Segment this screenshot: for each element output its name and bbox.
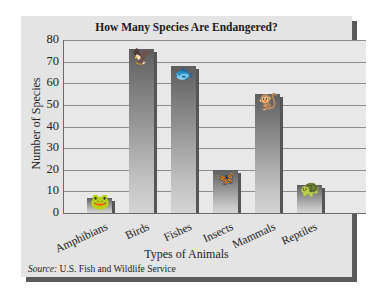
gridline: [64, 105, 366, 106]
bird-icon: 🦅: [132, 49, 152, 65]
gridline: [64, 83, 366, 84]
gridline: [64, 40, 366, 41]
bar-mammals: 🐒: [255, 94, 280, 213]
x-tick-label: Birds: [123, 220, 151, 241]
source-label: Source:: [28, 264, 57, 274]
chart-title: How Many Species Are Endangered?: [21, 21, 352, 33]
source-text: U.S. Fish and Wildlife Service: [57, 264, 175, 274]
y-tick-label: 50: [21, 97, 59, 112]
gridline: [64, 62, 366, 63]
y-tick-label: 30: [21, 140, 59, 155]
y-tick-label: 70: [21, 54, 59, 69]
bar-fishes: 🐟: [171, 66, 196, 213]
bar-amphibians: 🐸: [87, 198, 112, 213]
x-axis-label: Types of Animals: [21, 247, 352, 262]
y-tick-label: 60: [21, 75, 59, 90]
lemur-icon: 🐒: [258, 94, 278, 110]
y-tick-label: 80: [21, 32, 59, 47]
y-tick-label: 10: [21, 183, 59, 198]
source-note: Source: U.S. Fish and Wildlife Service: [28, 264, 176, 274]
frog-icon: 🐸: [90, 194, 110, 210]
y-tick-label: 20: [21, 162, 59, 177]
gridline: [64, 127, 366, 128]
x-tick-label: Mammals: [230, 220, 277, 250]
bar-insects: 🦋: [213, 170, 238, 213]
x-tick-label: Fishes: [161, 220, 193, 243]
bar-birds: 🦅: [129, 49, 154, 213]
fish-icon: 🐟: [174, 66, 194, 82]
bar-reptiles: 🐢: [297, 185, 322, 213]
y-tick-label: 40: [21, 119, 59, 134]
x-tick-label: Reptiles: [280, 220, 319, 247]
plot-area: 🐸🦅🐟🦋🐒🐢: [63, 40, 366, 214]
turtle-icon: 🐢: [300, 181, 320, 197]
butterfly-icon: 🦋: [216, 170, 236, 186]
y-tick-label: 0: [21, 205, 59, 220]
gridline: [64, 148, 366, 149]
chart-panel: How Many Species Are Endangered? Number …: [21, 16, 352, 277]
